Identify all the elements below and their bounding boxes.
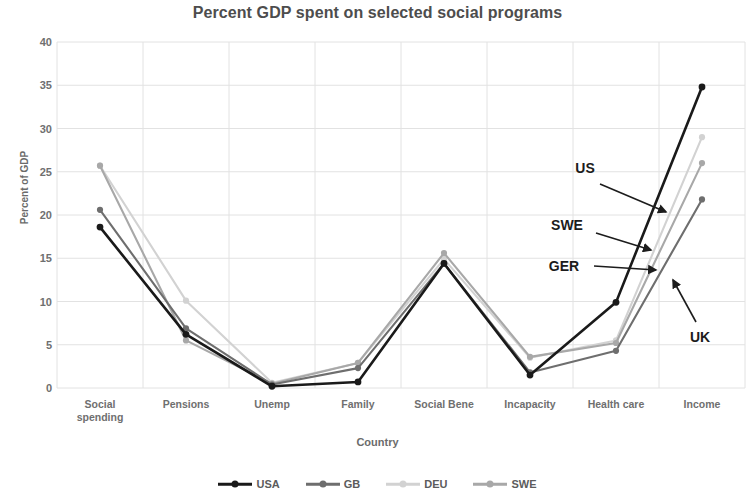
data-point-deu-7 bbox=[699, 134, 705, 140]
data-point-gb-3 bbox=[355, 365, 361, 371]
annotation-label-us: US bbox=[575, 160, 594, 176]
data-point-gb-6 bbox=[613, 348, 619, 354]
data-point-usa-3 bbox=[355, 379, 362, 386]
legend-item-usa[interactable]: USA bbox=[218, 478, 279, 490]
legend-item-swe[interactable]: SWE bbox=[473, 478, 536, 490]
legend-marker-dot bbox=[487, 481, 494, 488]
data-point-swe-4 bbox=[441, 250, 447, 256]
legend-item-deu[interactable]: DEU bbox=[386, 478, 447, 490]
data-point-swe-0 bbox=[97, 163, 103, 169]
legend-marker-dot bbox=[400, 481, 407, 488]
data-point-usa-0 bbox=[97, 224, 104, 231]
data-point-swe-1 bbox=[183, 337, 189, 343]
data-point-usa-6 bbox=[613, 299, 620, 306]
annotation-arrow-us bbox=[600, 184, 666, 212]
data-point-deu-1 bbox=[183, 298, 189, 304]
legend-item-gb[interactable]: GB bbox=[306, 478, 361, 490]
legend-label: GB bbox=[344, 478, 361, 490]
data-point-gb-0 bbox=[97, 207, 103, 213]
data-point-usa-1 bbox=[183, 331, 190, 338]
legend-swatch-gb-icon bbox=[306, 479, 340, 489]
legend-marker-dot bbox=[232, 481, 239, 488]
legend-swatch-usa-icon bbox=[218, 479, 252, 489]
plot-area bbox=[0, 0, 755, 503]
annotation-label-ger: GER bbox=[549, 258, 579, 274]
annotation-label-uk: UK bbox=[690, 329, 710, 345]
legend-swatch-deu-icon bbox=[386, 479, 420, 489]
data-point-usa-5 bbox=[527, 372, 534, 379]
data-point-usa-7 bbox=[699, 84, 706, 91]
legend-label: SWE bbox=[511, 478, 536, 490]
chart-legend: USAGBDEUSWE bbox=[0, 478, 755, 490]
legend-marker-dot bbox=[319, 481, 326, 488]
annotation-label-swe: SWE bbox=[551, 217, 583, 233]
chart-container: Percent GDP spent on selected social pro… bbox=[0, 0, 755, 503]
data-point-usa-4 bbox=[441, 260, 448, 267]
legend-swatch-swe-icon bbox=[473, 479, 507, 489]
legend-label: USA bbox=[256, 478, 279, 490]
data-point-swe-7 bbox=[699, 160, 705, 166]
data-point-swe-5 bbox=[527, 354, 533, 360]
data-point-gb-7 bbox=[699, 196, 705, 202]
data-point-usa-2 bbox=[269, 383, 276, 390]
legend-label: DEU bbox=[424, 478, 447, 490]
